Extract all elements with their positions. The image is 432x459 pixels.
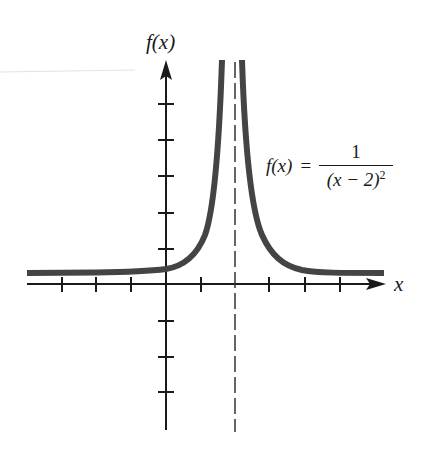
formula-denominator-base: (x − 2) (327, 169, 380, 190)
scan-artifact (0, 70, 135, 72)
formula-fraction: 1 (x − 2)2 (319, 141, 393, 191)
formula-exponent: 2 (380, 168, 386, 182)
formula-denominator: (x − 2)2 (327, 166, 386, 191)
formula-lhs: f(x) (266, 155, 292, 177)
graph (0, 0, 432, 459)
formula-numerator: 1 (319, 141, 393, 166)
curve-left-branch (27, 60, 222, 273)
function-annotation: f(x) = 1 (x − 2)2 (266, 141, 393, 191)
formula-equals: = (300, 155, 311, 177)
y-axis-label: f(x) (146, 30, 175, 55)
x-axis-label: x (394, 272, 403, 297)
